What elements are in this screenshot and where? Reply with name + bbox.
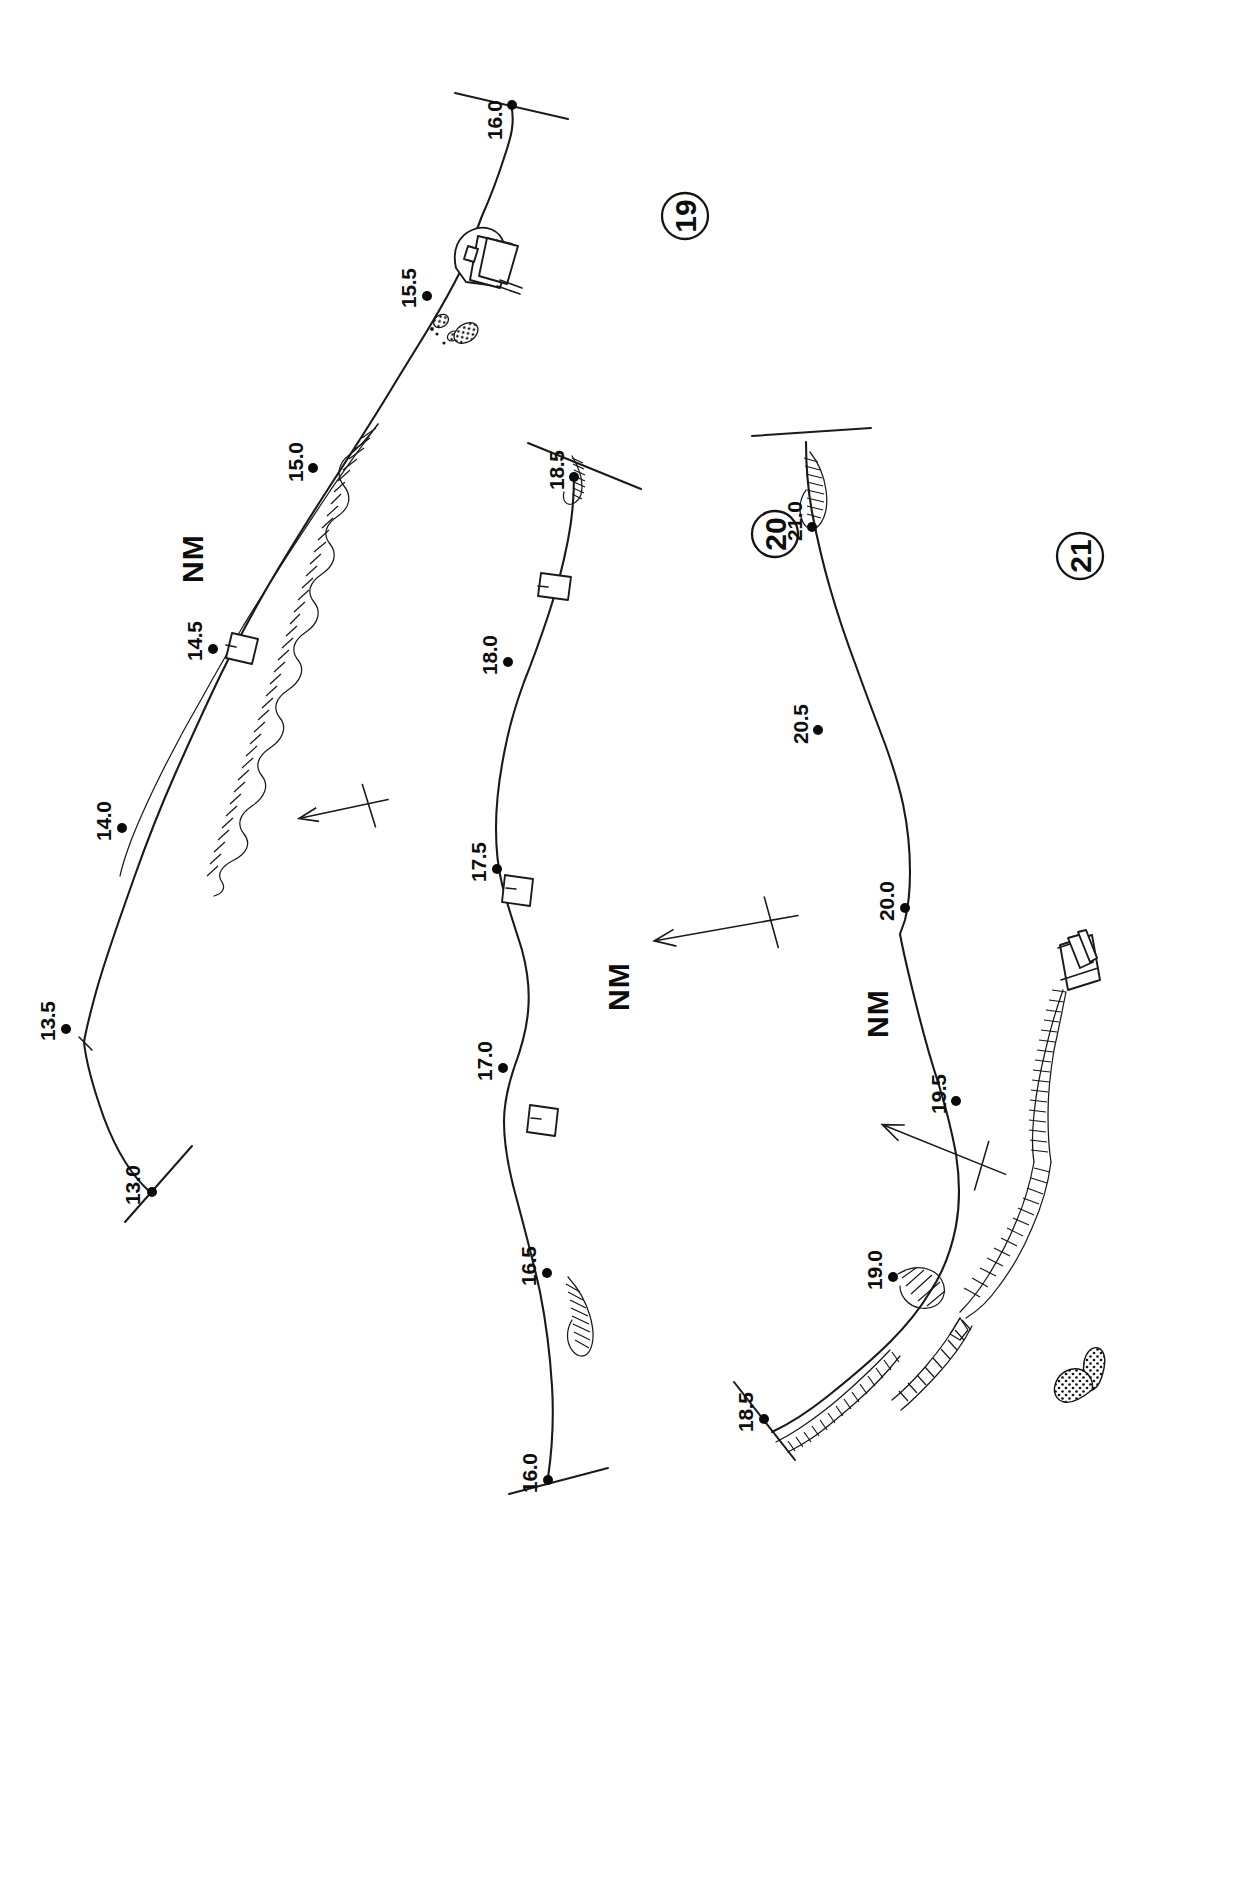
chainage-dot-17-5 [492, 864, 502, 874]
chainage-dot-13-0 [147, 1187, 157, 1197]
chainage-label-14-5: 14.5 [183, 621, 206, 661]
chainage-dot-16-0-s20 [543, 1475, 553, 1485]
lock-structure-17-5 [502, 875, 533, 906]
chainage-label-18-5-s21: 18.5 [734, 1392, 757, 1432]
chainage-label-13-5: 13.5 [36, 1001, 59, 1041]
chainage-label-14-0: 14.0 [92, 801, 115, 841]
chainage-label-19-0: 19.0 [863, 1250, 886, 1290]
chainage-label-15-5: 15.5 [397, 268, 420, 308]
chainage-label-17-5: 17.5 [467, 842, 490, 882]
chainage-dot-14-0 [117, 823, 127, 833]
chainage-dot-15-5 [422, 291, 432, 301]
north-marker-label-20: NM [602, 962, 635, 1011]
chainage-dot-14-5 [208, 644, 218, 654]
chainage-label-20-0: 20.0 [875, 881, 898, 921]
sheet-number-text-19: 19 [669, 199, 702, 232]
sheet-number-badge-19: 19 [662, 193, 708, 239]
chainage-label-15-0: 15.0 [284, 442, 307, 482]
sheet-number-badge-21: 21 [1057, 533, 1103, 579]
sheet-number-text-21: 21 [1064, 539, 1097, 572]
survey-drawing-canvas: 16.0 15.5 15.0 14.5 14.0 13.5 13.0 NM 19 [0, 0, 1257, 1891]
chainage-label-18-5: 18.5 [545, 450, 568, 490]
chainage-label-16-0: 16.0 [483, 100, 506, 140]
chainage-dot-18-5-s21 [759, 1414, 769, 1424]
chainage-label-18-0: 18.0 [478, 635, 501, 675]
chainage-label-20-5: 20.5 [789, 704, 812, 744]
chainage-dot-18-0 [503, 657, 513, 667]
chainage-dot-13-5 [61, 1024, 71, 1034]
lock-structure-18-2 [538, 573, 571, 600]
chainage-label-21-0: 21.0 [783, 501, 806, 541]
bank-structure-14-5 [226, 633, 258, 664]
north-marker-label-19: NM [176, 534, 209, 583]
chainage-label-17-0: 17.0 [473, 1041, 496, 1081]
chainage-dot-19-0 [888, 1272, 898, 1282]
chainage-label-16-5: 16.5 [517, 1246, 540, 1286]
chainage-dot-15-0 [308, 463, 318, 473]
chainage-dot-21-0 [807, 522, 817, 532]
chainage-label-13-0: 13.0 [121, 1165, 144, 1205]
chainage-dot-20-0 [900, 903, 910, 913]
chainage-dot-20-5 [813, 725, 823, 735]
chainage-dot-16-5 [542, 1268, 552, 1278]
chainage-label-16-0-s20: 16.0 [518, 1453, 541, 1493]
drawing-svg: 16.0 15.5 15.0 14.5 14.0 13.5 13.0 NM 19 [0, 0, 1257, 1891]
north-marker-label-21: NM [861, 989, 894, 1038]
chainage-dot-16-0 [507, 100, 517, 110]
chainage-dot-17-0 [498, 1063, 508, 1073]
chainage-dot-18-5 [569, 472, 579, 482]
chainage-label-19-5: 19.5 [927, 1074, 950, 1114]
chainage-dot-19-5 [951, 1096, 961, 1106]
lock-structure-17-0 [527, 1105, 558, 1136]
